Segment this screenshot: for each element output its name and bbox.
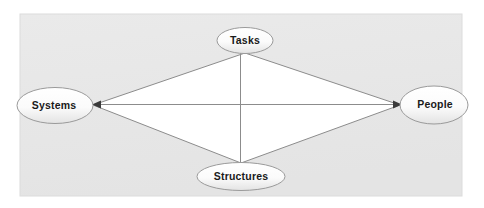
node-structures[interactable]: Structures (197, 163, 285, 191)
node-tasks-shape (217, 28, 273, 54)
node-systems[interactable]: Systems (17, 88, 93, 124)
node-tasks[interactable]: Tasks (217, 28, 273, 54)
node-systems-shape (17, 88, 93, 124)
node-people[interactable]: People (400, 86, 468, 124)
node-people-shape (400, 86, 468, 124)
node-structures-shape (197, 163, 285, 191)
diagram-canvas: Tasks Systems People Structures (0, 0, 484, 208)
diagram-svg: Tasks Systems People Structures (0, 0, 484, 208)
